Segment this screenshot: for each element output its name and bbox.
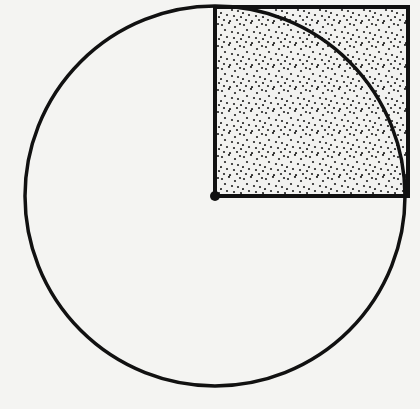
circle-square-diagram bbox=[0, 0, 420, 409]
center-point bbox=[210, 191, 220, 201]
